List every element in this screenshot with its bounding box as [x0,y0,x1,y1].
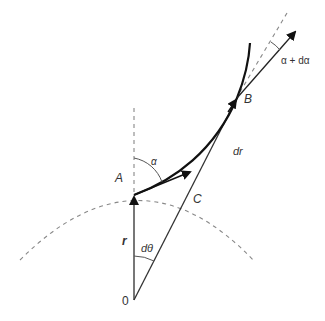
label-origin: 0 [122,294,129,308]
label-point-b: B [244,92,252,106]
label-alpha: α [151,156,157,167]
label-dr: dr [233,145,244,157]
dashed-radial-extension-b [240,13,287,92]
polar-geometry-diagram: 0 A B C r dr dθ α α + dα [0,0,325,321]
tangent-arrow-a [134,172,190,195]
trajectory-curve [134,43,250,195]
angle-arc-alpha-plus-dalpha [271,42,280,50]
angle-arc-dtheta [134,256,154,261]
angle-arc-alpha [134,158,162,182]
label-radius-r: r [122,234,128,248]
diagram-canvas: 0 A B C r dr dθ α α + dα [0,0,325,321]
label-dtheta: dθ [141,242,153,254]
label-point-c: C [193,192,202,206]
label-alpha-plus-dalpha: α + dα [281,55,310,66]
dashed-arc-radius-r [20,200,255,262]
label-point-a: A [114,171,123,185]
